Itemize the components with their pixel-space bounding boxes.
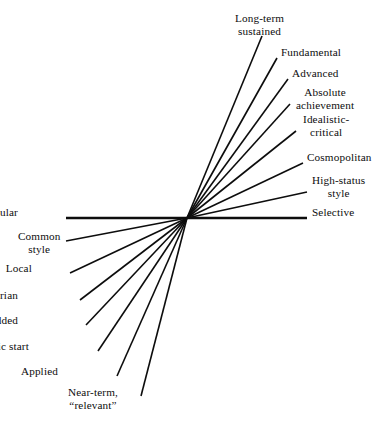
spoke-label-advanced: Advanced <box>292 67 339 80</box>
spoke-line-basic-start <box>98 218 187 351</box>
spoke-label-near-term-relevant: Near-term, “relevant” <box>68 386 118 412</box>
spoke-line-high-status-style <box>187 192 307 218</box>
diagram-canvas: Long-term sustainedFundamentalAdvancedAb… <box>0 0 384 430</box>
spoke-label-utilitarian: Utilitarian <box>0 289 18 302</box>
spoke-line-utilitarian <box>80 218 187 300</box>
spoke-label-popular: Popular <box>0 206 18 219</box>
spoke-line-long-term-sustained <box>187 36 262 218</box>
spoke-label-cosmopolitan: Cosmopolitan <box>307 151 372 164</box>
spoke-label-applied: Applied <box>21 365 58 378</box>
spoke-label-selective: Selective <box>312 206 354 219</box>
spoke-label-basic-start: Basic start <box>0 340 29 353</box>
spoke-line-fundamental <box>187 58 277 218</box>
spoke-label-local: Local <box>6 262 32 275</box>
spoke-label-value-added: Value added <box>0 314 18 327</box>
spoke-line-absolute-achievement <box>187 104 290 218</box>
spoke-label-high-status-style: High-status style <box>312 174 365 200</box>
spoke-label-idealistic-critical: Idealistic- critical <box>303 113 349 139</box>
spoke-label-absolute-achievement: Absolute achievement <box>296 86 354 112</box>
spoke-label-long-term-sustained: Long-term sustained <box>235 12 284 38</box>
spoke-label-common-style: Common style <box>18 230 61 256</box>
spoke-label-fundamental: Fundamental <box>281 46 341 59</box>
